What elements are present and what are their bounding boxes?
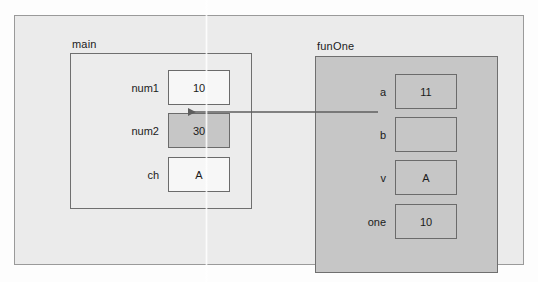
variable-value-b xyxy=(395,117,457,152)
variable-name-a: a xyxy=(338,86,395,98)
variable-value-one: 10 xyxy=(395,204,457,239)
variable-row-num1: num1 10 xyxy=(111,70,230,105)
variable-name-num1: num1 xyxy=(111,82,168,94)
variable-row-ch: ch A xyxy=(111,157,230,192)
variable-name-num2: num2 xyxy=(111,125,168,137)
variable-name-one: one xyxy=(338,216,395,228)
diagram-canvas: main num1 10 num2 30 ch A funOne a 11 xyxy=(0,0,538,282)
variable-row-a: a 11 xyxy=(338,74,457,109)
variable-row-b: b xyxy=(338,117,457,152)
outer-frame: main num1 10 num2 30 ch A funOne a 11 xyxy=(14,15,524,265)
scope-label-funone: funOne xyxy=(317,40,354,52)
variable-value-num1: 10 xyxy=(168,70,230,105)
scope-box-main: num1 10 num2 30 ch A xyxy=(70,53,252,209)
variable-name-ch: ch xyxy=(111,169,168,181)
variable-name-b: b xyxy=(338,129,395,141)
variable-row-v: v A xyxy=(338,160,457,195)
variable-value-num2: 30 xyxy=(168,113,230,148)
variable-name-v: v xyxy=(338,172,395,184)
variable-value-ch: A xyxy=(168,157,230,192)
variable-row-one: one 10 xyxy=(338,204,457,239)
scope-label-main: main xyxy=(72,38,97,50)
scope-box-funone: a 11 b v A one 10 xyxy=(315,56,498,273)
variable-row-num2: num2 30 xyxy=(111,113,230,148)
variable-value-a: 11 xyxy=(395,74,457,109)
variable-value-v: A xyxy=(395,160,457,195)
